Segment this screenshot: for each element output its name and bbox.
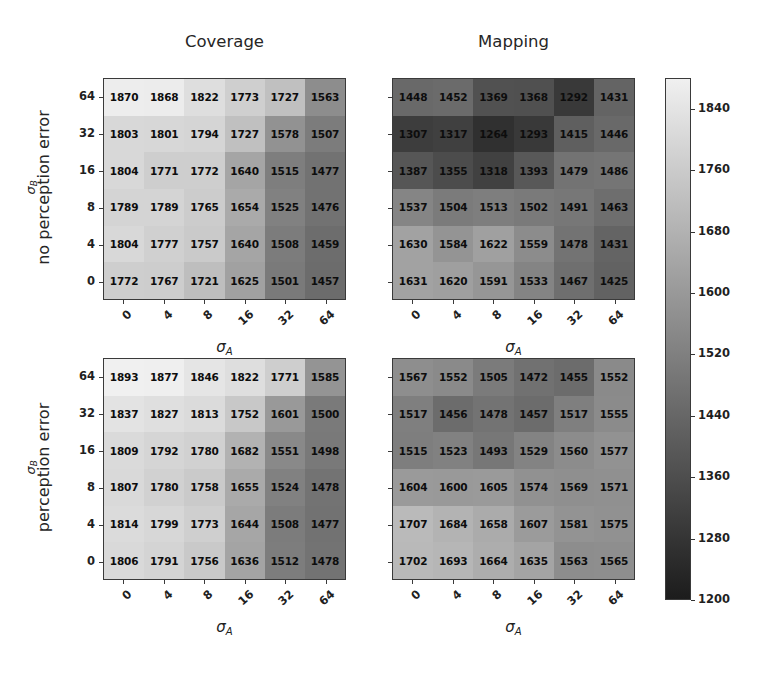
y-tickmark [388,97,392,98]
heatmap-cell: 1644 [225,506,265,543]
heatmap-cell: 1563 [554,542,594,579]
x-tickmark [326,580,327,584]
heatmap-cell: 1455 [554,359,594,396]
x-tickmark [204,580,205,584]
heatmap-cell: 1571 [594,469,634,506]
heatmap-cell: 1478 [305,469,345,506]
x-axis-label-subscript: A [226,346,233,357]
heatmap-cell: 1515 [393,432,433,469]
heatmap-cell: 1446 [594,116,634,153]
heatmap-cell: 1803 [104,116,144,153]
heatmap-cell: 1771 [144,152,184,189]
heatmap-cell: 1292 [554,79,594,116]
heatmap-cell: 1771 [265,359,305,396]
colorbar-tickmark [691,600,695,601]
heatmap-cell: 1585 [305,359,345,396]
colorbar-gradient [665,78,691,600]
heatmap-cell: 1563 [305,79,345,116]
heatmap-cell: 1636 [225,542,265,579]
colorbar-tick-label: 1760 [698,162,730,176]
heatmap-cell: 1415 [554,116,594,153]
colorbar-tickmark [691,477,695,478]
heatmap-cell: 1804 [104,152,144,189]
x-tickmark [615,300,616,304]
x-axis-label: σA [392,618,635,637]
panel-title-mapping: Mapping [392,32,635,51]
x-axis-label: σA [392,338,635,357]
x-tickmark [412,300,413,304]
heatmap-cell: 1493 [473,432,513,469]
heatmap-cell: 1505 [473,359,513,396]
y-tickmark [99,377,103,378]
y-tick-label: 64 [63,369,95,383]
x-tickmark [534,300,535,304]
heatmap-cell: 1631 [393,262,433,299]
heatmap-cell: 1752 [225,396,265,433]
colorbar-tick-label: 1600 [698,285,730,299]
heatmap-cell: 1478 [554,226,594,263]
heatmap-cell: 1799 [144,506,184,543]
x-tickmark [453,300,454,304]
colorbar-tickmark [691,416,695,417]
heatmap-cell: 1502 [514,189,554,226]
y-tickmark [99,245,103,246]
heatmap-cell: 1807 [104,469,144,506]
heatmap-cell: 1552 [433,359,473,396]
heatmap-cell: 1523 [433,432,473,469]
y-tick-label: 0 [63,274,95,288]
heatmap-cell: 1448 [393,79,433,116]
heatmap-cell: 1727 [265,79,305,116]
heatmap-cell: 1293 [514,116,554,153]
heatmap-cell: 1459 [305,226,345,263]
heatmap-cell: 1806 [104,542,144,579]
colorbar-tickmark [691,293,695,294]
heatmap-cell: 1307 [393,116,433,153]
colorbar-tickmark [691,354,695,355]
x-tickmark [285,580,286,584]
heatmap-cell: 1457 [514,396,554,433]
y-tickmark [99,208,103,209]
colorbar-tick-label: 1680 [698,224,730,238]
heatmap-cell: 1757 [184,226,224,263]
heatmap-cell: 1622 [473,226,513,263]
heatmap-cell: 1500 [305,396,345,433]
heatmap-cell: 1870 [104,79,144,116]
y-tickmark [388,134,392,135]
x-tickmark [493,580,494,584]
heatmap-cell: 1767 [144,262,184,299]
heatmap-cell: 1533 [514,262,554,299]
heatmap-cell: 1794 [184,116,224,153]
heatmap-cell: 1664 [473,542,513,579]
heatmap-cell: 1569 [554,469,594,506]
heatmap-cell: 1565 [594,542,634,579]
heatmap-cell: 1508 [265,506,305,543]
y-tickmark [99,97,103,98]
x-tickmark [285,300,286,304]
heatmap-cell: 1525 [265,189,305,226]
heatmap-panel-noerror-mapping: 1448145213691368129214311307131712641293… [392,78,635,300]
heatmap-cell: 1517 [393,396,433,433]
x-tickmark [164,580,165,584]
y-tickmark [388,171,392,172]
heatmap-cell: 1431 [594,79,634,116]
heatmap-cell: 1727 [225,116,265,153]
x-tickmark [326,300,327,304]
heatmap-cell: 1846 [184,359,224,396]
heatmap-cell: 1789 [104,189,144,226]
y-tickmark [99,562,103,563]
heatmap-cell: 1758 [184,469,224,506]
heatmap-cell: 1640 [225,152,265,189]
y-tickmark [99,451,103,452]
heatmap-cell: 1773 [225,79,265,116]
heatmap-cell: 1772 [104,262,144,299]
y-tick-label: 32 [63,406,95,420]
heatmap-cell: 1789 [144,189,184,226]
heatmap-cell: 1654 [225,189,265,226]
heatmap-cell: 1560 [554,432,594,469]
heatmap-cell: 1625 [225,262,265,299]
heatmap-cell: 1791 [144,542,184,579]
heatmap-cell: 1780 [184,432,224,469]
heatmap-cell: 1822 [184,79,224,116]
heatmap-cell: 1559 [514,226,554,263]
heatmap-cell: 1425 [594,262,634,299]
